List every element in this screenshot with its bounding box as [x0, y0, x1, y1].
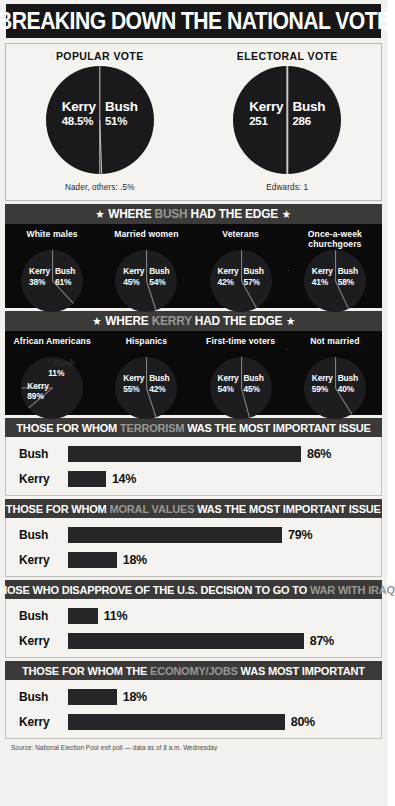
issue-band-highlight: WAR WITH IRAQ: [310, 583, 395, 596]
group-bush-name: Bush: [244, 267, 264, 277]
star-icon: ★: [96, 208, 105, 220]
bar-label: Bush: [10, 609, 68, 623]
group-bush-value: 40%: [338, 384, 358, 394]
group-pie-labels: Kerry 59% Bush 40%: [304, 374, 366, 394]
group-cell-white-males: White males Kerry 38% Bush 61%: [5, 224, 99, 308]
kerry-edge-strip: African Americans Bush 11% Kerry 89% His…: [5, 331, 382, 415]
group-bush-value: 45%: [244, 384, 264, 394]
group-bush-value: 61%: [55, 277, 75, 287]
issue-bars: Bush 11% Kerry 87%: [5, 599, 382, 658]
issue-band-highlight: MORAL VALUES: [110, 502, 195, 515]
group-kerry-name: Kerry: [27, 381, 49, 391]
issue-band-inner: THOSE FOR WHOM TERRORISM WAS THE MOST IM…: [16, 421, 370, 434]
issue-band-post: WAS MOST IMPORTANT: [238, 664, 365, 677]
kerry-edge-pre: WHERE: [105, 314, 151, 328]
bar-value: 18%: [123, 551, 147, 569]
issue-band: THOSE FOR WHOM MORAL VALUES WAS THE MOST…: [5, 499, 382, 518]
bush-edge-band-inner: ★WHERE BUSH HAD THE EDGE★: [92, 207, 295, 221]
bush-edge-post: HAD THE EDGE: [188, 207, 279, 221]
group-label: Married women: [99, 229, 193, 249]
group-bush: Bush 57%: [244, 267, 264, 287]
issue-band-pre: THOSE FOR WHOM: [16, 421, 120, 434]
group-kerry: Kerry 59%: [312, 374, 333, 394]
bar-track: 80%: [68, 714, 377, 730]
bar-track: 86%: [68, 446, 377, 462]
group-kerry-name: Kerry: [218, 374, 239, 384]
electoral-vote-pie: Kerry 251 Bush 286: [233, 66, 341, 174]
group-bush-name: Bush: [149, 374, 169, 384]
bar-value: 87%: [310, 632, 334, 650]
issue-band-highlight: ECONOMY/JOBS: [150, 664, 238, 677]
issue-band-pre: THOSE WHO DISAPPROVE OF THE U.S. DECISIO…: [0, 583, 310, 596]
group-pie: Kerry 45% Bush 54%: [115, 250, 177, 312]
group-pie: Kerry 42% Bush 57%: [210, 250, 272, 312]
bar-label: Kerry: [10, 715, 68, 729]
star-icon: ★: [92, 315, 101, 327]
electoral-vote-pie-circle: [233, 66, 341, 174]
popular-vote-heading: POPULAR VOTE: [6, 50, 194, 62]
group-kerry-name: Kerry: [123, 267, 144, 277]
issue-band: THOSE FOR WHOM THE ECONOMY/JOBS WAS MOST…: [5, 661, 382, 680]
bar-value: 11%: [104, 607, 127, 625]
bar-row: Kerry 87%: [10, 630, 377, 651]
group-bush-name: Bush: [338, 267, 358, 277]
group-kerry-name: Kerry: [312, 374, 333, 384]
group-label: White males: [5, 229, 99, 249]
group-kerry: Kerry 89%: [27, 381, 49, 401]
issue-band-pre: THOSE FOR WHOM THE: [22, 664, 150, 677]
group-kerry-name: Kerry: [312, 267, 333, 277]
bar-track: 18%: [68, 552, 377, 568]
group-bush: Bush 45%: [244, 374, 264, 394]
group-label: Not married: [288, 336, 382, 356]
bar-fill: [68, 608, 98, 624]
bar-row: Kerry 14%: [10, 468, 377, 489]
group-label: Hispanics: [99, 336, 193, 356]
group-cell-married-women: Married women Kerry 45% Bush 54%: [99, 224, 193, 308]
page-title-bar: BREAKING DOWN THE NATIONAL VOTE: [6, 4, 381, 38]
kerry-edge-band-inner: ★WHERE KERRY HAD THE EDGE★: [88, 314, 298, 328]
issue-bars: Bush 18% Kerry 80%: [5, 680, 382, 739]
group-pie: Kerry 38% Bush 61%: [21, 250, 83, 312]
bar-value: 86%: [307, 445, 331, 463]
group-kerry-value: 59%: [312, 384, 333, 394]
issue-band-post: WAS THE MOST IMPORTANT ISSUE: [184, 421, 370, 434]
issue-band: THOSE FOR WHOM TERRORISM WAS THE MOST IM…: [5, 418, 382, 437]
issue-bars: Bush 79% Kerry 18%: [5, 518, 382, 577]
group-kerry-name: Kerry: [218, 267, 239, 277]
issue-block-war-with-iraq: THOSE WHO DISAPPROVE OF THE U.S. DECISIO…: [5, 580, 382, 658]
bush-edge-band: ★WHERE BUSH HAD THE EDGE★: [5, 204, 382, 224]
pie-divider-top: [99, 66, 100, 120]
bar-label: Bush: [10, 690, 68, 704]
issue-band-inner: THOSE WHO DISAPPROVE OF THE U.S. DECISIO…: [0, 583, 395, 596]
issue-band-pre: THOSE FOR WHOM: [6, 502, 110, 515]
bar-row: Bush 86%: [10, 443, 377, 464]
electoral-vote-heading: ELECTORAL VOTE: [194, 50, 382, 62]
group-kerry-value: 54%: [218, 384, 239, 394]
group-bush: Bush 58%: [338, 267, 358, 287]
bar-fill: [68, 446, 301, 462]
group-cell-hispanics: Hispanics Kerry 55% Bush 42%: [99, 331, 193, 415]
electoral-vote-block: ELECTORAL VOTE Kerry 251 Bush 286: [194, 50, 382, 192]
national-vote-panel: POPULAR VOTE Kerry 48.5% Bush 51%: [5, 43, 382, 201]
group-bush-value: 54%: [149, 277, 169, 287]
bar-row: Kerry 18%: [10, 549, 377, 570]
bar-value: 18%: [123, 688, 147, 706]
electoral-vote-note: Edwards: 1: [194, 183, 382, 192]
group-pie: Kerry 54% Bush 45%: [210, 357, 272, 419]
group-bush: Bush 61%: [55, 267, 75, 287]
popular-vote-note: Nader, others: .5%: [6, 183, 194, 192]
group-bush-name: Bush: [149, 267, 169, 277]
group-kerry: Kerry 54%: [218, 374, 239, 394]
bar-fill: [68, 471, 106, 487]
issue-band-inner: THOSE FOR WHOM THE ECONOMY/JOBS WAS MOST…: [22, 664, 365, 677]
group-kerry: Kerry 38%: [29, 267, 50, 287]
group-cell-african-americans: African Americans Bush 11% Kerry 89%: [5, 331, 99, 415]
issue-band-inner: THOSE FOR WHOM MORAL VALUES WAS THE MOST…: [6, 502, 381, 515]
group-pie-labels: Kerry 41% Bush 58%: [304, 267, 366, 287]
bar-fill: [68, 714, 285, 730]
group-pie: Bush 11% Kerry 89%: [21, 357, 83, 419]
issue-band: THOSE WHO DISAPPROVE OF THE U.S. DECISIO…: [5, 580, 382, 599]
bar-label: Kerry: [10, 553, 68, 567]
source-line: Source: National Election Pool exit poll…: [5, 742, 382, 751]
group-cell-churchgoers: Once-a-week churchgoers Kerry 41% Bush 5…: [288, 224, 382, 308]
